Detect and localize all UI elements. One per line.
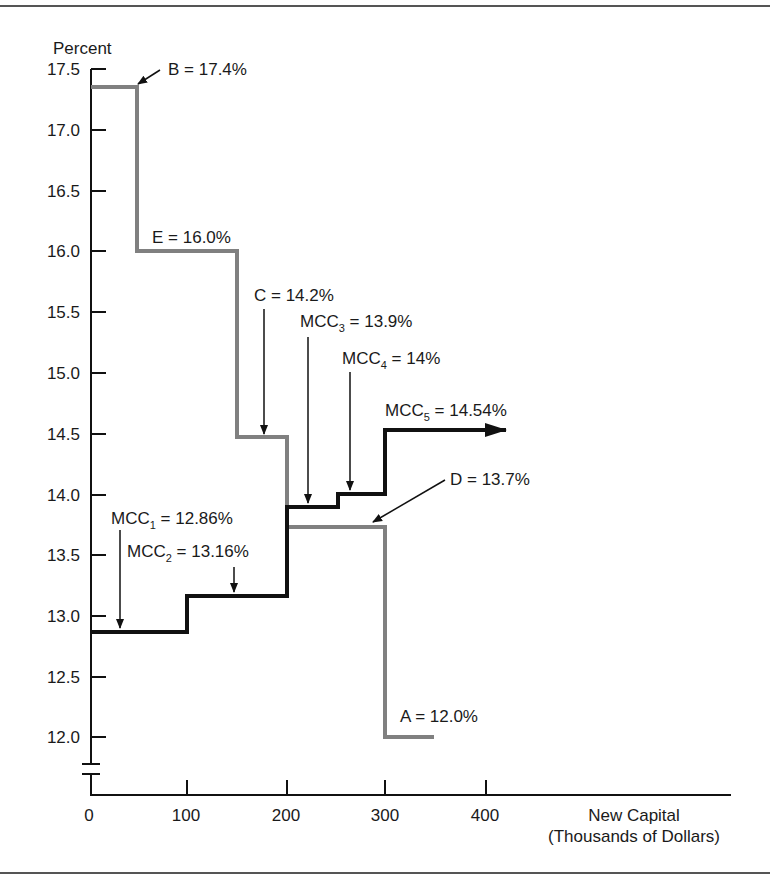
label-D: D = 13.7% — [450, 470, 530, 489]
y-tick-labels: 17.5 17.0 16.5 16.0 15.5 15.0 14.5 14.0 … — [47, 60, 80, 747]
y-tick-17.5: 17.5 — [47, 60, 80, 79]
mcc-ios-chart: Percent 17.5 17.0 16.5 16.0 15.5 15.0 14… — [0, 0, 770, 890]
y-tick-13.0: 13.0 — [47, 607, 80, 626]
y-tick-12.5: 12.5 — [47, 668, 80, 687]
y-tick-14.5: 14.5 — [47, 425, 80, 444]
y-tick-16.0: 16.0 — [47, 242, 80, 261]
y-tick-15.5: 15.5 — [47, 303, 80, 322]
x-tick-100: 100 — [172, 806, 200, 825]
x-tick-0: 0 — [84, 806, 93, 825]
label-MCC2: MCC2 = 13.16% — [127, 542, 249, 564]
ios-step-line — [91, 87, 434, 737]
annotation-labels: B = 17.4% E = 16.0% C = 14.2% MCC3 = 13.… — [111, 60, 530, 726]
y-tick-16.5: 16.5 — [47, 182, 80, 201]
x-tick-200: 200 — [272, 806, 300, 825]
label-B: B = 17.4% — [168, 60, 247, 79]
label-E: E = 16.0% — [152, 228, 231, 247]
arrow-B — [138, 70, 160, 84]
x-tick-400: 400 — [471, 806, 499, 825]
y-tick-14.0: 14.0 — [47, 486, 80, 505]
x-tick-300: 300 — [371, 806, 399, 825]
label-A: A = 12.0% — [400, 707, 478, 726]
label-MCC1: MCC1 = 12.86% — [111, 509, 233, 531]
y-tick-15.0: 15.0 — [47, 364, 80, 383]
label-MCC5: MCC5 = 14.54% — [385, 401, 507, 423]
y-tick-17.0: 17.0 — [47, 121, 80, 140]
y-tick-12.0: 12.0 — [47, 728, 80, 747]
x-axis-label: New Capital (Thousands of Dollars) — [548, 806, 720, 846]
x-ticks — [187, 780, 486, 795]
y-tick-13.5: 13.5 — [47, 546, 80, 565]
x-axis-label-line-1: New Capital — [588, 806, 680, 825]
x-tick-labels: 0 100 200 300 400 — [84, 806, 499, 825]
y-axis-label: Percent — [53, 39, 112, 58]
mcc-step-line — [91, 430, 506, 632]
y-axis — [82, 69, 100, 796]
y-ticks — [91, 69, 106, 737]
label-MCC4: MCC4 = 14% — [342, 349, 440, 371]
x-axis-label-line-2: (Thousands of Dollars) — [548, 827, 720, 846]
label-MCC3: MCC3 = 13.9% — [300, 312, 412, 334]
label-C: C = 14.2% — [254, 286, 334, 305]
